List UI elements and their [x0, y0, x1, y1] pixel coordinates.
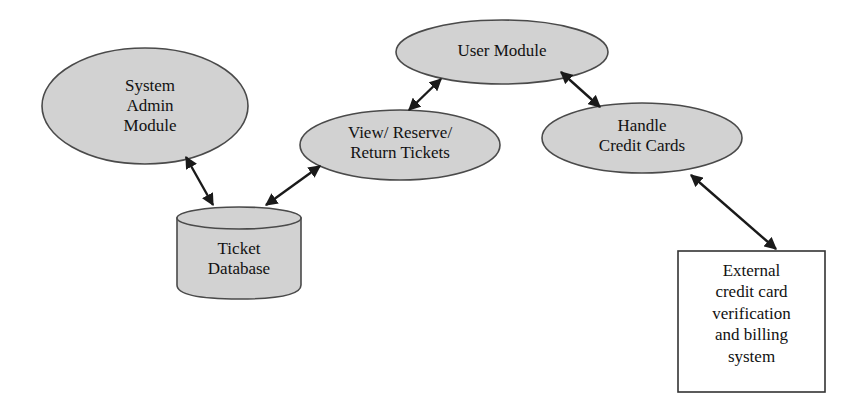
node-handle-credit-cards: [542, 103, 742, 173]
connector-view-reserve-to-user-module: [409, 79, 441, 110]
diagram-graphics: [0, 0, 866, 420]
node-view-reserve-return-tickets: [300, 110, 500, 180]
connector-handle-credit-to-external: [691, 175, 776, 249]
node-ticket-database: [177, 207, 301, 299]
node-user-module: [396, 20, 608, 84]
node-external-credit-card-system: [678, 251, 825, 392]
connector-database-to-view-reserve: [266, 166, 320, 205]
connector-admin-to-database: [186, 157, 213, 205]
node-system-admin-module: [42, 48, 248, 164]
diagram-canvas: System Admin Module User Module View/ Re…: [0, 0, 866, 420]
connector-user-module-to-handle-credit: [561, 72, 600, 107]
